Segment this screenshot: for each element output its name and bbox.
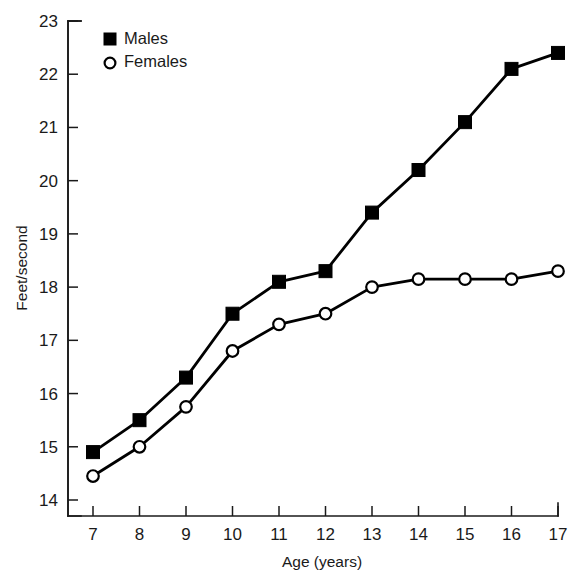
x-tick-label: 15 — [456, 525, 475, 544]
legend-marker-females — [105, 58, 116, 69]
y-tick-label: 22 — [39, 65, 58, 84]
data-point-males — [133, 414, 146, 427]
data-series-layer — [87, 46, 565, 481]
data-point-females — [180, 401, 192, 413]
data-point-females — [134, 441, 146, 453]
series-females — [87, 265, 564, 482]
data-point-males — [552, 46, 565, 59]
data-point-males — [180, 371, 193, 384]
data-point-females — [320, 308, 332, 320]
y-axis-line — [68, 21, 81, 516]
data-point-males — [87, 446, 100, 459]
legend-label-females: Females — [124, 52, 187, 70]
y-tick-label: 15 — [39, 438, 58, 457]
legend-marker-males — [104, 33, 116, 45]
legend-label-males: Males — [124, 29, 168, 47]
data-point-males — [366, 206, 379, 219]
data-point-males — [505, 62, 518, 75]
x-axis-ticks: 7891011121314151617 — [88, 506, 567, 544]
series-line-females — [93, 271, 558, 476]
data-point-females — [87, 470, 99, 482]
data-point-females — [459, 273, 471, 285]
x-tick-label: 12 — [316, 525, 335, 544]
data-point-females — [413, 273, 425, 285]
data-point-females — [273, 319, 285, 331]
y-tick-label: 18 — [39, 278, 58, 297]
y-axis-title: Feet/second — [13, 225, 30, 310]
y-axis-ticks: 14151617181920212223 — [39, 12, 78, 510]
y-tick-label: 21 — [39, 118, 58, 137]
data-point-males — [273, 275, 286, 288]
x-tick-label: 9 — [181, 525, 190, 544]
x-tick-label: 16 — [502, 525, 521, 544]
y-tick-label: 16 — [39, 385, 58, 404]
data-point-females — [366, 281, 378, 293]
data-point-females — [552, 265, 564, 277]
x-tick-label: 10 — [223, 525, 242, 544]
y-tick-label: 20 — [39, 172, 58, 191]
y-tick-label: 19 — [39, 225, 58, 244]
x-tick-label: 13 — [363, 525, 382, 544]
line-chart-canvas: 14151617181920212223 7891011121314151617… — [0, 0, 580, 577]
x-tick-label: 8 — [135, 525, 144, 544]
y-tick-label: 23 — [39, 12, 58, 31]
chart-figure: 14151617181920212223 7891011121314151617… — [0, 0, 580, 577]
x-tick-label: 14 — [409, 525, 428, 544]
series-line-males — [93, 53, 558, 452]
x-tick-label: 7 — [88, 525, 97, 544]
x-tick-label: 11 — [270, 525, 288, 544]
data-point-males — [412, 164, 425, 177]
chart-legend: Males Females — [104, 29, 187, 70]
data-point-females — [227, 345, 239, 357]
data-point-females — [506, 273, 518, 285]
data-point-males — [226, 307, 239, 320]
y-tick-label: 14 — [39, 491, 58, 510]
x-tick-label: 17 — [549, 525, 568, 544]
x-axis-title: Age (years) — [282, 553, 362, 570]
data-point-males — [459, 116, 472, 129]
data-point-males — [319, 265, 332, 278]
y-tick-label: 17 — [39, 331, 58, 350]
series-males — [87, 46, 565, 458]
